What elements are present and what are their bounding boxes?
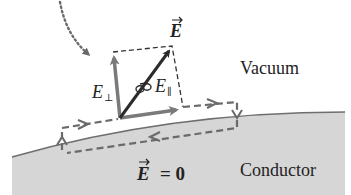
svg-text:E: E [169,21,182,41]
diagram-canvas: E E ⊥ E ∥ Vacuum Conductor E = 0 [0,0,351,195]
e-parallel-arrow [120,110,176,118]
svg-text:E: E [154,76,166,96]
vacuum-label: Vacuum [240,58,299,78]
svg-text:∥: ∥ [167,86,172,97]
e-perpendicular-label: E ⊥ [91,82,113,103]
svg-text:E: E [136,163,150,184]
e-vector-label: E [169,17,182,41]
svg-text:E: E [91,82,103,102]
svg-text:= 0: = 0 [160,163,185,184]
conductor-label: Conductor [240,160,316,180]
dotted-curved-arrow-icon [60,2,88,54]
component-construction-lines [113,46,183,107]
inside-field-equation: E = 0 [136,159,185,184]
e-parallel-label: E ∥ [154,76,172,97]
svg-text:⊥: ⊥ [104,92,113,103]
e-perpendicular-arrow [114,58,120,118]
